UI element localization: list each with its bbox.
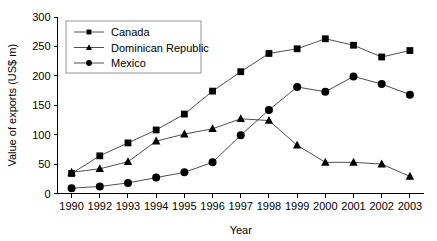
x-tick-label: 1993: [116, 200, 140, 212]
data-point-marker: [153, 127, 160, 134]
chart-canvas: 0501001502002503001990199219931994199519…: [0, 0, 437, 241]
data-point-marker: [265, 106, 273, 114]
data-point-marker: [293, 83, 301, 91]
line-chart: 0501001502002503001990199219931994199519…: [0, 0, 437, 241]
y-tick-label: 200: [32, 70, 50, 82]
data-point-marker: [124, 179, 132, 187]
data-point-marker: [377, 159, 385, 167]
y-tick-label: 250: [32, 40, 50, 52]
data-point-marker: [294, 45, 301, 52]
data-point-marker: [350, 72, 358, 80]
data-point-marker: [265, 116, 273, 124]
y-tick-label: 0: [44, 188, 50, 200]
x-tick-label: 1990: [59, 200, 83, 212]
data-point-marker: [180, 168, 188, 176]
x-tick-label: 2002: [369, 200, 393, 212]
y-tick-label: 100: [32, 129, 50, 141]
y-tick-label: 150: [32, 99, 50, 111]
data-point-marker: [96, 152, 103, 159]
y-axis-title: Value of exports (US$ m): [6, 44, 18, 167]
x-tick-label: 1997: [229, 200, 253, 212]
data-point-marker: [237, 68, 244, 75]
x-tick-label: 1992: [88, 200, 112, 212]
data-point-marker: [349, 158, 357, 166]
data-point-marker: [68, 184, 76, 192]
data-point-marker: [407, 47, 414, 54]
y-axis-ticks: 050100150200250300: [32, 11, 57, 200]
data-point-marker: [406, 172, 414, 180]
data-point-marker: [181, 111, 188, 118]
legend-label: Canada: [111, 26, 150, 38]
data-point-marker: [96, 182, 104, 190]
x-tick-label: 1998: [257, 200, 281, 212]
legend-label: Dominican Republic: [111, 42, 209, 54]
data-point-marker: [209, 88, 216, 95]
data-point-marker: [124, 157, 132, 165]
data-point-marker: [321, 88, 329, 96]
data-point-marker: [321, 158, 329, 166]
data-point-marker: [266, 50, 273, 57]
square-marker: [87, 30, 92, 35]
x-tick-label: 2003: [398, 200, 422, 212]
series-mexico: [68, 72, 414, 192]
x-tick-label: 1994: [144, 200, 168, 212]
data-point-marker: [237, 131, 245, 139]
x-axis-title: Year: [230, 224, 253, 236]
data-point-marker: [209, 158, 217, 166]
x-tick-label: 1995: [172, 200, 196, 212]
circle-marker: [86, 60, 92, 66]
series-line: [72, 119, 410, 177]
data-point-marker: [125, 140, 132, 147]
data-point-marker: [322, 35, 329, 42]
x-tick-label: 2000: [313, 200, 337, 212]
data-point-marker: [378, 54, 385, 61]
legend: CanadaDominican RepublicMexico: [66, 21, 209, 73]
data-point-marker: [378, 80, 386, 88]
y-tick-label: 50: [38, 158, 50, 170]
x-tick-label: 2001: [341, 200, 365, 212]
legend-label: Mexico: [111, 57, 146, 69]
x-axis-ticks: 1990199219931994199519961997199819992000…: [59, 194, 422, 212]
data-point-marker: [350, 42, 357, 49]
data-point-marker: [293, 141, 301, 149]
data-point-marker: [237, 114, 245, 122]
data-point-marker: [152, 174, 160, 182]
x-tick-label: 1999: [285, 200, 309, 212]
x-tick-label: 1996: [200, 200, 224, 212]
y-tick-label: 300: [32, 11, 50, 23]
data-point-marker: [406, 91, 414, 99]
